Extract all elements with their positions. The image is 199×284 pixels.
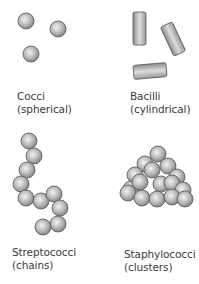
staphylococci-illustration bbox=[120, 146, 193, 207]
cocci-name: Cocci bbox=[17, 90, 72, 103]
staphylococci-desc: (clusters) bbox=[124, 261, 195, 274]
bacilli-desc: (cylindrical) bbox=[130, 103, 190, 116]
streptococci-illustration bbox=[13, 133, 68, 235]
streptococci-desc: (chains) bbox=[12, 259, 76, 272]
streptococci-name: Streptococci bbox=[12, 246, 76, 259]
bacteria-shapes-diagram bbox=[0, 0, 199, 284]
cocci-illustration bbox=[18, 13, 66, 62]
streptococci-label: Streptococci (chains) bbox=[12, 246, 76, 272]
cocci-desc: (spherical) bbox=[17, 103, 72, 116]
staphylococci-label: Staphylococci (clusters) bbox=[124, 248, 195, 274]
cocci-label: Cocci (spherical) bbox=[17, 90, 72, 116]
bacilli-name: Bacilli bbox=[130, 90, 190, 103]
bacilli-label: Bacilli (cylindrical) bbox=[130, 90, 190, 116]
staphylococci-name: Staphylococci bbox=[124, 248, 195, 261]
bacilli-illustration bbox=[133, 12, 186, 79]
